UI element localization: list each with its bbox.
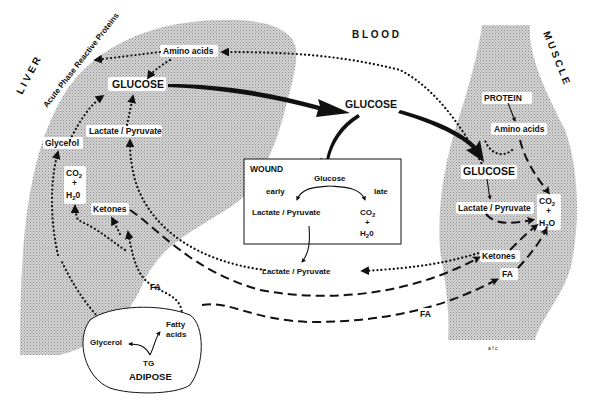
svg-text:M U S C L E: M U S C L E <box>541 30 572 86</box>
muscle-label: M U S C L E <box>541 30 572 86</box>
muscle-lactate-pyruvate: Lactate / Pyruvate <box>458 203 531 213</box>
muscle-glucose: GLUCOSE <box>463 165 515 177</box>
wound-lactate-pyruvate: Lactate / Pyruvate <box>252 208 321 217</box>
metabolism-diagram: L I V E R B L O O D M U S C L E Acute Ph… <box>0 0 592 407</box>
blood-glucose: GLUCOSE <box>345 98 397 110</box>
muscle-protein: PROTEIN <box>484 93 522 103</box>
blood-fa-right: FA <box>420 309 431 319</box>
wound-title: WOUND <box>250 164 283 174</box>
blood-label: B L O O D <box>352 29 399 40</box>
adipose-glycerol: Glycerol <box>90 338 122 347</box>
blood-lactate-pyruvate: Lactate / Pyruvate <box>262 267 331 276</box>
adipose-fatty: Fatty <box>166 320 186 329</box>
muscle-fa: FA <box>502 269 513 279</box>
adipose-tg: TG <box>143 359 154 368</box>
wound-glucose: Glucose <box>314 174 346 183</box>
svg-text:+: + <box>365 218 370 227</box>
liver-lactate-pyruvate: Lactate / Pyruvate <box>89 126 162 136</box>
muscle-region <box>439 25 577 340</box>
footer-mark: a f c <box>488 345 498 351</box>
wound-late: late <box>374 187 388 196</box>
wound-early: early <box>266 187 285 196</box>
liver-glucose: GLUCOSE <box>112 78 164 90</box>
svg-text:+: + <box>72 178 77 188</box>
muscle-amino-acids: Amino acids <box>494 124 545 134</box>
muscle-ketones: Ketones <box>482 251 516 261</box>
liver-amino-acids: Amino acids <box>163 46 214 56</box>
blood-fa-left: FA <box>150 282 161 292</box>
adipose-acids: acids <box>166 330 187 339</box>
svg-text:+: + <box>546 206 551 216</box>
liver-ketones: Ketones <box>93 204 127 214</box>
adipose-title: ADIPOSE <box>129 371 172 382</box>
liver-glycerol: Glycerol <box>45 138 79 148</box>
